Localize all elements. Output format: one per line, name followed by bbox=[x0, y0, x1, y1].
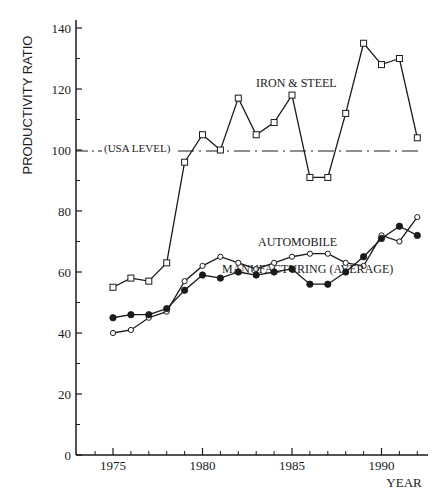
square-marker bbox=[182, 159, 188, 165]
y-tick-label: 140 bbox=[52, 21, 72, 36]
filled-circle-marker bbox=[325, 281, 331, 287]
y-tick-label: 100 bbox=[52, 143, 72, 158]
square-marker bbox=[110, 284, 116, 290]
square-marker bbox=[361, 40, 367, 46]
square-marker bbox=[343, 110, 349, 116]
filled-circle-marker bbox=[414, 232, 420, 238]
open-circle-marker bbox=[218, 254, 223, 259]
filled-circle-marker bbox=[307, 281, 313, 287]
y-tick-label: 120 bbox=[52, 82, 72, 97]
open-circle-marker bbox=[200, 263, 205, 268]
square-marker bbox=[396, 56, 402, 62]
filled-circle-marker bbox=[146, 312, 152, 318]
filled-circle-marker bbox=[360, 254, 366, 260]
square-marker bbox=[128, 275, 134, 281]
y-tick-label: 40 bbox=[58, 326, 71, 341]
y-axis-label: PRODUCTIVITY RATIO bbox=[20, 36, 35, 175]
y-tick-label: 0 bbox=[65, 448, 72, 463]
x-tick-label: 1990 bbox=[369, 458, 395, 473]
open-circle-marker bbox=[307, 251, 312, 256]
square-marker bbox=[325, 174, 331, 180]
axes bbox=[76, 20, 428, 455]
square-marker bbox=[235, 95, 241, 101]
filled-circle-marker bbox=[181, 287, 187, 293]
square-marker bbox=[146, 278, 152, 284]
open-circle-marker bbox=[110, 330, 115, 335]
automobile-label: AUTOMOBILE bbox=[258, 235, 337, 249]
filled-circle-marker bbox=[128, 312, 134, 318]
manufacturing-label: MANUFACTURING (AVERAGE) bbox=[222, 262, 393, 276]
y-tick-label: 80 bbox=[58, 204, 71, 219]
filled-circle-marker bbox=[164, 305, 170, 311]
square-marker bbox=[307, 174, 313, 180]
productivity-ratio-chart: 020406080100120140 1975198019851990 PROD… bbox=[0, 0, 446, 501]
square-marker bbox=[200, 132, 206, 138]
open-circle-marker bbox=[325, 251, 330, 256]
x-axis-label: YEAR bbox=[386, 475, 422, 490]
filled-circle-marker bbox=[396, 223, 402, 229]
x-tick-labels: 1975198019851990 bbox=[100, 458, 395, 473]
filled-circle-marker bbox=[199, 272, 205, 278]
usa-level-label: (USA LEVEL) bbox=[104, 142, 171, 155]
open-circle-marker bbox=[128, 327, 133, 332]
square-marker bbox=[414, 135, 420, 141]
x-tick-label: 1980 bbox=[190, 458, 216, 473]
x-tick-label: 1985 bbox=[279, 458, 305, 473]
x-tick-label: 1975 bbox=[100, 458, 126, 473]
open-circle-marker bbox=[182, 279, 187, 284]
square-marker bbox=[164, 260, 170, 266]
filled-circle-marker bbox=[378, 235, 384, 241]
square-marker bbox=[289, 92, 295, 98]
y-tick-label: 20 bbox=[58, 387, 71, 402]
open-circle-marker bbox=[289, 254, 294, 259]
square-marker bbox=[271, 120, 277, 126]
square-marker bbox=[379, 62, 385, 68]
y-tick-label: 60 bbox=[58, 265, 71, 280]
y-tick-labels: 020406080100120140 bbox=[52, 21, 72, 463]
open-circle-marker bbox=[397, 239, 402, 244]
filled-circle-marker bbox=[110, 315, 116, 321]
iron-steel-label: IRON & STEEL bbox=[256, 76, 337, 90]
open-circle-marker bbox=[415, 215, 420, 220]
square-marker bbox=[253, 132, 259, 138]
square-marker bbox=[217, 147, 223, 153]
